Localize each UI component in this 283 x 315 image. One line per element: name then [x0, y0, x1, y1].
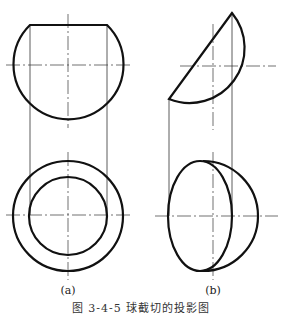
panel-a-label: (a)	[60, 284, 75, 297]
panel-b	[155, 13, 278, 280]
projection-lines-b	[169, 13, 232, 216]
truncated-sphere-front-b	[169, 13, 245, 103]
centerlines-b-top	[155, 152, 278, 280]
centerlines-a-top	[6, 152, 130, 280]
panel-a	[6, 14, 130, 280]
centerlines-b-front	[180, 24, 276, 130]
figure-caption: 图 3-4-5 球截切的投影图	[72, 299, 210, 315]
panel-b-label: (b)	[205, 284, 221, 297]
